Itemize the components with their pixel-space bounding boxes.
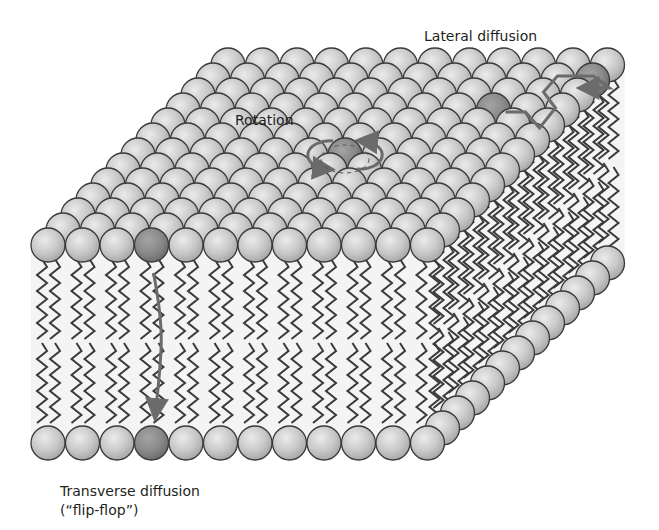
- lipid-head: [66, 426, 100, 460]
- lipid-head: [307, 228, 341, 262]
- lipid-head: [204, 426, 238, 460]
- lipid-head: [376, 426, 410, 460]
- lipid-head: [273, 426, 307, 460]
- lipid-head: [411, 228, 445, 262]
- lipid-head: [66, 228, 100, 262]
- lipid-head: [376, 228, 410, 262]
- lipid-head: [411, 426, 445, 460]
- lipid-head: [31, 426, 65, 460]
- lipid-bilayer-diagram: Lateral diffusion Rotation Transverse di…: [0, 0, 659, 530]
- lipid-head: [342, 228, 376, 262]
- lipid-head: [342, 426, 376, 460]
- lipid-head: [169, 228, 203, 262]
- transverse-diffusion-label: Transverse diffusion: [60, 483, 200, 500]
- lipid-head: [100, 426, 134, 460]
- rotation-label: Rotation: [235, 112, 294, 129]
- lipid-head: [238, 228, 272, 262]
- flip-flop-lipid-head-bottom: [135, 426, 169, 460]
- lateral-diffusion-label: Lateral diffusion: [424, 28, 537, 45]
- lipid-head: [238, 426, 272, 460]
- flip-flop-label: (“flip-flop”): [60, 502, 138, 519]
- lipid-head: [204, 228, 238, 262]
- lipid-head: [169, 426, 203, 460]
- flip-flop-lipid-head-top: [135, 228, 169, 262]
- lipid-head: [31, 228, 65, 262]
- lipid-head: [100, 228, 134, 262]
- lipid-head: [273, 228, 307, 262]
- bilayer-illustration: [0, 0, 659, 530]
- lipid-head: [307, 426, 341, 460]
